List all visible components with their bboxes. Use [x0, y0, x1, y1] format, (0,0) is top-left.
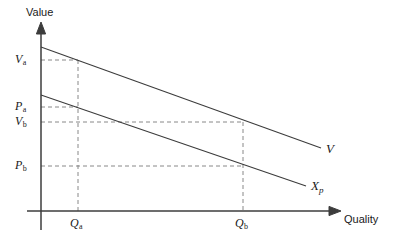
- y-tick-label-pb: Pb: [15, 158, 27, 173]
- data-lines: [41, 47, 321, 186]
- chart-plot-area: [0, 0, 398, 250]
- y-axis-title: Value: [26, 6, 53, 18]
- x-tick-label-qa-base: Q: [70, 216, 79, 230]
- x-tick-label-qa-sub: a: [79, 222, 83, 231]
- x-axis-title: Quality: [344, 213, 378, 225]
- x-tick-label-qb-sub: b: [244, 222, 248, 231]
- y-tick-label-va: Va: [15, 52, 26, 67]
- guide-lines: [41, 60, 243, 211]
- line-series-V: [41, 47, 321, 148]
- y-tick-label-vb: Vb: [15, 114, 27, 129]
- y-tick-label-va-base: V: [15, 52, 22, 66]
- line-series-Xp: [41, 95, 306, 186]
- series-label-xp-base: X: [311, 178, 319, 193]
- x-tick-label-qa: Qa: [70, 216, 82, 231]
- y-tick-label-pa-base: P: [15, 99, 22, 113]
- x-tick-label-qb: Qb: [235, 216, 248, 231]
- y-tick-label-vb-sub: b: [23, 120, 27, 129]
- chart-figure: Value Quality Va Pa Vb Pb Qa Qb V Xp: [0, 0, 398, 250]
- series-label-v: V: [326, 141, 334, 157]
- series-label-v-base: V: [326, 141, 334, 156]
- y-tick-label-pb-sub: b: [23, 164, 27, 173]
- axes-group: [27, 22, 341, 230]
- y-tick-label-pa-sub: a: [23, 105, 27, 114]
- x-tick-label-qb-base: Q: [235, 216, 244, 230]
- x-axis-arrowhead: [329, 206, 341, 215]
- series-label-xp: Xp: [311, 178, 323, 194]
- y-tick-label-pa: Pa: [15, 99, 26, 114]
- y-tick-label-va-sub: a: [23, 58, 27, 67]
- y-tick-label-pb-base: P: [15, 158, 22, 172]
- y-axis-arrowhead: [36, 22, 45, 34]
- series-label-xp-sub: p: [319, 185, 324, 195]
- y-tick-label-vb-base: V: [15, 114, 22, 128]
